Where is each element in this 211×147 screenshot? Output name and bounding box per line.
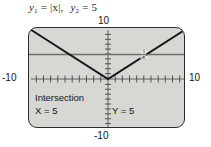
y-min-label: -10: [94, 130, 108, 141]
x-min-label: -10: [2, 72, 16, 83]
y2-subscript: 2: [76, 7, 80, 15]
y1-subscript: 1: [34, 7, 38, 15]
readout-intersection-heading: Intersection: [35, 92, 84, 103]
graph-title-equation: y1 = |x|, y2 = 5: [29, 1, 97, 13]
intersection-cursor-icon: [139, 50, 149, 60]
y1-expression: = |x|,: [41, 1, 64, 13]
y2-variable: y: [71, 1, 76, 13]
y-max-label: 10: [98, 15, 109, 26]
readout-y-value: Y = 5: [112, 105, 134, 116]
x-max-label: 10: [189, 72, 200, 83]
readout-x-value: X = 5: [35, 105, 57, 116]
calculator-screen[interactable]: Intersection X = 5 Y = 5: [28, 27, 185, 128]
y2-expression: = 5: [82, 1, 97, 13]
